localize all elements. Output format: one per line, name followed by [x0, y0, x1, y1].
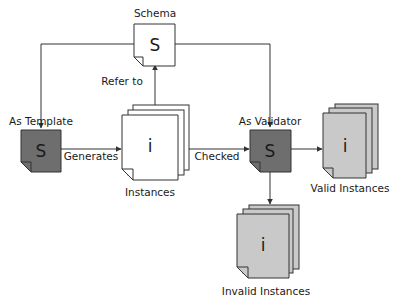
- node-valid-label: Valid Instances: [311, 182, 390, 194]
- node-template-label: As Template: [9, 115, 73, 127]
- node-instances-glyph: i: [148, 136, 153, 156]
- node-template: As Template S: [9, 115, 73, 172]
- edge-label-checked: Checked: [194, 150, 239, 162]
- node-invalid-glyph: i: [261, 235, 266, 255]
- node-valid-instances: i Valid Instances: [311, 104, 390, 194]
- node-instances-label: Instances: [125, 186, 175, 198]
- node-valid-glyph: i: [343, 136, 348, 156]
- node-validator-glyph: S: [265, 141, 276, 161]
- node-schema: Schema S: [134, 7, 176, 66]
- edge-label-generates: Generates: [64, 150, 119, 162]
- node-template-glyph: S: [36, 141, 47, 161]
- node-validator: As Validator S: [239, 115, 302, 172]
- node-schema-glyph: S: [150, 35, 161, 55]
- node-invalid-instances: i Invalid Instances: [222, 205, 310, 297]
- schema-diagram: Refer to Generates Checked Schema S As T…: [0, 0, 400, 302]
- node-validator-label: As Validator: [239, 115, 302, 127]
- node-instances: i Instances: [122, 105, 189, 198]
- node-schema-label: Schema: [134, 7, 176, 19]
- edge-label-refer-to: Refer to: [101, 75, 143, 87]
- node-invalid-label: Invalid Instances: [222, 285, 310, 297]
